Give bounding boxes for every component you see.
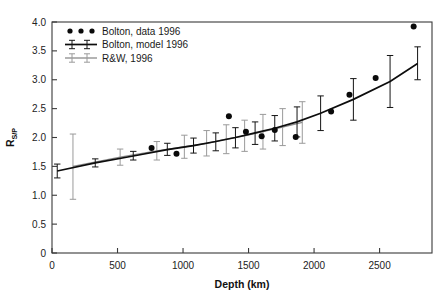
y-tick-label: 0 (40, 248, 46, 259)
data-point (411, 24, 417, 30)
chart-figure: 0500100015002000250000.51.01.52.02.53.03… (0, 0, 446, 300)
data-point (373, 75, 379, 81)
x-tick-label: 1000 (172, 260, 195, 271)
legend-label-bolton-data: Bolton, data 1996 (102, 26, 181, 37)
y-tick-label: 0.5 (32, 219, 46, 230)
y-tick-label: 3.0 (32, 74, 46, 85)
y-tick-label: 3.5 (32, 45, 46, 56)
legend-marker-dot (78, 28, 83, 33)
x-axis-title: Depth (km) (215, 278, 270, 290)
data-point (346, 92, 352, 98)
x-tick-label: 0 (49, 260, 55, 271)
y-axis-title: RS/P (4, 128, 19, 147)
data-point (226, 113, 232, 119)
legend-label-rw: R&W, 1996 (102, 53, 153, 64)
legend-marker-dot (67, 28, 72, 33)
x-tick-label: 2500 (368, 260, 391, 271)
x-tick-label: 2000 (303, 260, 326, 271)
y-tick-label: 4.0 (32, 17, 46, 28)
y-tick-label: 1.5 (32, 161, 46, 172)
data-point (243, 129, 249, 135)
data-point (293, 134, 299, 140)
y-tick-label: 2.0 (32, 132, 46, 143)
data-point (259, 133, 265, 139)
x-tick-label: 500 (109, 260, 126, 271)
data-point (173, 151, 179, 157)
data-point (149, 145, 155, 151)
data-point (328, 109, 334, 115)
x-tick-label: 1500 (237, 260, 260, 271)
y-tick-label: 2.5 (32, 103, 46, 114)
legend-marker-dot (89, 28, 94, 33)
y-tick-label: 1.0 (32, 190, 46, 201)
bolton-model-trend-line (57, 64, 417, 171)
chart-svg: 0500100015002000250000.51.01.52.02.53.03… (0, 0, 446, 300)
data-point (272, 127, 278, 133)
legend-label-bolton-model: Bolton, model 1996 (102, 39, 189, 50)
